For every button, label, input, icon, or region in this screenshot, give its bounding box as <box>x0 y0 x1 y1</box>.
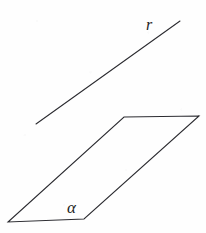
geometry-figure: r α <box>0 0 206 233</box>
plane-alpha-label: α <box>67 199 76 216</box>
figure-canvas <box>0 0 206 233</box>
plane-alpha-parallelogram <box>8 116 199 222</box>
line-r-segment <box>36 21 180 124</box>
line-r-label: r <box>146 17 152 33</box>
